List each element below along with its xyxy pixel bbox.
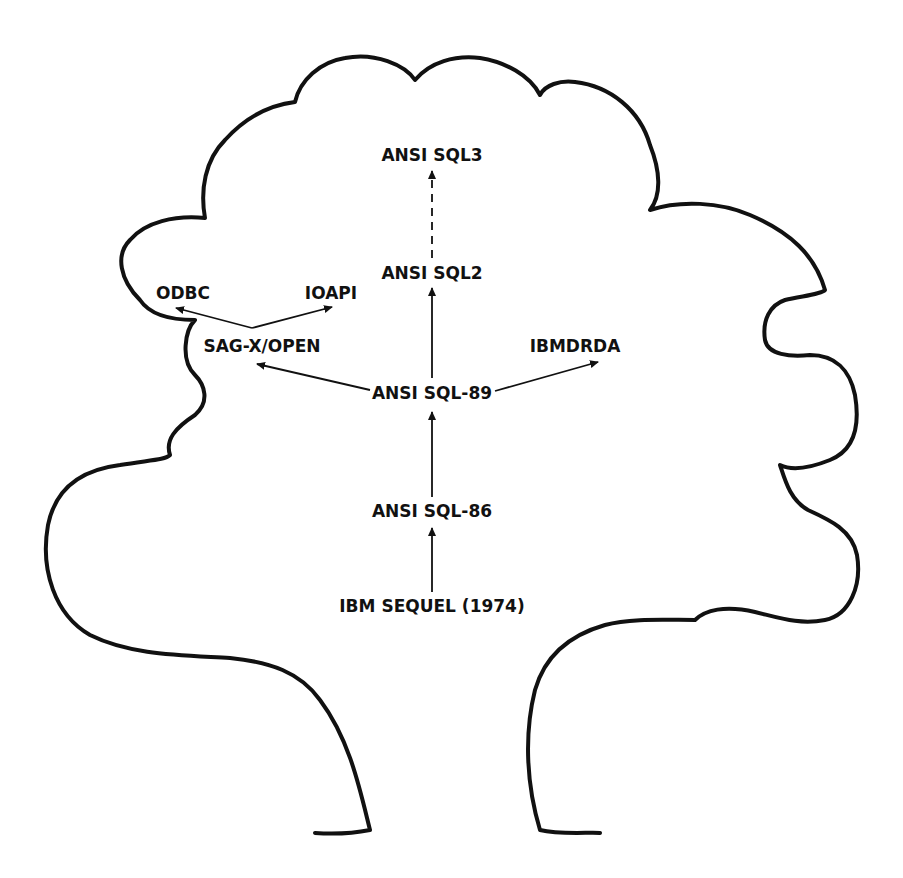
node-odbc: ODBC	[156, 283, 210, 303]
edge-sagx-to-ioapi	[252, 307, 332, 328]
node-ioapi: IOAPI	[305, 283, 357, 303]
edge-sql89-to-ibmdrda	[495, 362, 598, 391]
tree-diagram	[0, 0, 903, 878]
node-ansi-sql3: ANSI SQL3	[381, 145, 482, 165]
node-ansi-sql-86: ANSI SQL-86	[372, 501, 492, 521]
node-ibm-sequel-1974: IBM SEQUEL (1974)	[339, 596, 524, 616]
tree-outline	[46, 57, 858, 834]
node-ibmdrda: IBMDRDA	[530, 336, 621, 356]
edge-sql89-to-sagx	[257, 364, 370, 390]
node-ansi-sql-89: ANSI SQL-89	[372, 383, 492, 403]
node-sag-x-open: SAG-X/OPEN	[203, 336, 320, 356]
node-ansi-sql2: ANSI SQL2	[381, 263, 482, 283]
